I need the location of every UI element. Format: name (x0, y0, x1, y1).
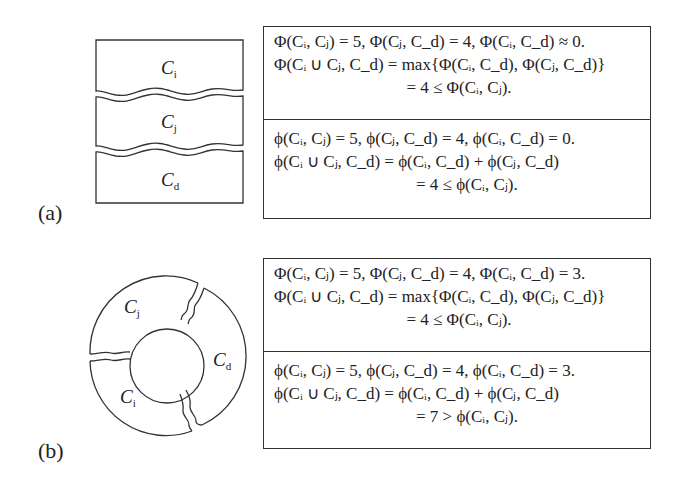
region-ci-label: Ci (161, 57, 177, 80)
equation-line: Φ(Cᵢ ∪ Cⱼ, C_d) = max{Φ(Cᵢ, C_d), Φ(Cⱼ, … (274, 53, 644, 76)
region-cj-label: Cj (124, 296, 140, 319)
panel-b-label: (b) (38, 438, 64, 464)
equation-line: ϕ(Cᵢ, Cⱼ) = 5, ϕ(Cⱼ, C_d) = 4, ϕ(Cᵢ, C_d… (274, 127, 644, 150)
equation-line: ϕ(Cᵢ, Cⱼ) = 5, ϕ(Cⱼ, C_d) = 4, ϕ(Cᵢ, C_d… (274, 359, 644, 382)
region-ci-label: Ci (120, 386, 136, 409)
equation-line: ϕ(Cᵢ ∪ Cⱼ, C_d) = ϕ(Cᵢ, C_d) + ϕ(Cⱼ, C_d… (274, 382, 644, 405)
panel-a-equation-box: Φ(Cᵢ, Cⱼ) = 5, Φ(Cⱼ, C_d) = 4, Φ(Cᵢ, C_d… (263, 26, 651, 219)
equation-line: = 4 ≤ Φ(Cᵢ, Cⱼ). (274, 76, 644, 99)
region-cd-label: Cd (213, 349, 232, 372)
equation-line: ϕ(Cᵢ ∪ Cⱼ, C_d) = ϕ(Cᵢ, C_d) + ϕ(Cⱼ, C_d… (274, 150, 644, 173)
region-cj-label: Cj (161, 111, 177, 134)
ring-inner-boundary (130, 329, 204, 403)
max-aggregation-panel-a: Φ(Cᵢ, Cⱼ) = 5, Φ(Cⱼ, C_d) = 4, Φ(Cᵢ, C_d… (264, 27, 650, 119)
equation-line: Φ(Cᵢ ∪ Cⱼ, C_d) = max{Φ(Cᵢ, C_d), Φ(Cⱼ, … (274, 285, 644, 308)
panel-a-label: (a) (38, 200, 62, 226)
sum-aggregation-panel-b: ϕ(Cᵢ, Cⱼ) = 5, ϕ(Cⱼ, C_d) = 4, ϕ(Cᵢ, C_d… (264, 351, 650, 432)
equation-line: = 4 ≤ ϕ(Cᵢ, Cⱼ). (274, 173, 644, 196)
equation-line: = 7 > ϕ(Cᵢ, Cⱼ). (274, 405, 644, 428)
equation-line: = 4 ≤ Φ(Cᵢ, Cⱼ). (274, 308, 644, 331)
panel-b-equation-box: Φ(Cᵢ, Cⱼ) = 5, Φ(Cⱼ, C_d) = 4, Φ(Cᵢ, C_d… (263, 258, 651, 449)
ring-outer-boundary (90, 276, 198, 354)
max-aggregation-panel-b: Φ(Cᵢ, Cⱼ) = 5, Φ(Cⱼ, C_d) = 4, Φ(Cᵢ, C_d… (264, 259, 650, 351)
equation-line: Φ(Cᵢ, Cⱼ) = 5, Φ(Cⱼ, C_d) = 4, Φ(Cᵢ, C_d… (274, 30, 644, 53)
sum-aggregation-panel-a: ϕ(Cᵢ, Cⱼ) = 5, ϕ(Cⱼ, C_d) = 4, ϕ(Cᵢ, C_d… (264, 119, 650, 200)
equation-line: Φ(Cᵢ, Cⱼ) = 5, Φ(Cⱼ, C_d) = 4, Φ(Cᵢ, C_d… (274, 262, 644, 285)
region-cd-label: Cd (161, 169, 180, 192)
